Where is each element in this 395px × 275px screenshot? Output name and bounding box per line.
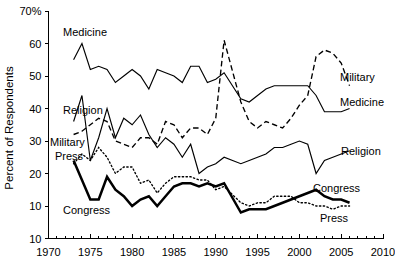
inline-label-press: Press: [55, 150, 84, 162]
y-axis-tick-labels: 1010203040506070%: [19, 5, 41, 245]
x-tick-label: 2005: [329, 246, 353, 258]
y-tick-label: 40: [29, 103, 41, 115]
x-tick-label: 2000: [287, 246, 311, 258]
y-tick-label: 30: [29, 135, 41, 147]
x-axis-group: 197019751980198519901995200020052010: [36, 234, 395, 258]
end-label-congress: Congress: [313, 182, 361, 194]
inline-label-medicine: Medicine: [63, 26, 107, 38]
series-line-congress: [74, 161, 350, 213]
x-tick-label: 1985: [162, 246, 186, 258]
y-tick-label: 50: [29, 70, 41, 82]
x-tick-label: 2010: [371, 246, 395, 258]
y-tick-label: 70%: [19, 5, 41, 17]
y-tick-label: 10: [29, 200, 41, 212]
end-label-military: Military: [340, 71, 375, 83]
y-tick-label: 20: [29, 168, 41, 180]
inline-label-congress: Congress: [63, 204, 111, 216]
end-label-press: Press: [320, 212, 349, 224]
x-tick-label: 1995: [245, 246, 269, 258]
x-axis-tick-labels: 197019751980198519901995200020052010: [36, 246, 395, 258]
chart-plot-area: 1010203040506070% Percent of Respondents…: [0, 0, 395, 275]
y-axis-title: Percent of Respondents: [3, 66, 15, 190]
y-axis-group: 1010203040506070% Percent of Respondents: [3, 5, 49, 245]
series-line-medicine: [74, 44, 350, 112]
inline-label-religion: Religion: [63, 104, 103, 116]
data-series-group: [74, 40, 350, 212]
series-line-religion: [74, 96, 350, 174]
x-tick-label: 1990: [204, 246, 228, 258]
x-tick-label: 1975: [78, 246, 102, 258]
end-label-medicine: Medicine: [340, 96, 384, 108]
y-axis-ticks: [45, 11, 49, 239]
inline-series-labels: MedicineReligionMilitaryPressCongress: [50, 26, 111, 216]
x-tick-label: 1970: [36, 246, 60, 258]
end-label-religion: Religion: [341, 145, 381, 157]
inline-label-military: Military: [50, 136, 85, 148]
y-tick-label: 10: [29, 233, 41, 245]
y-tick-label: 60: [29, 38, 41, 50]
series-line-press: [74, 148, 350, 210]
x-tick-label: 1980: [120, 246, 144, 258]
line-chart-figure: 1010203040506070% Percent of Respondents…: [0, 0, 395, 275]
series-line-military: [74, 40, 350, 147]
